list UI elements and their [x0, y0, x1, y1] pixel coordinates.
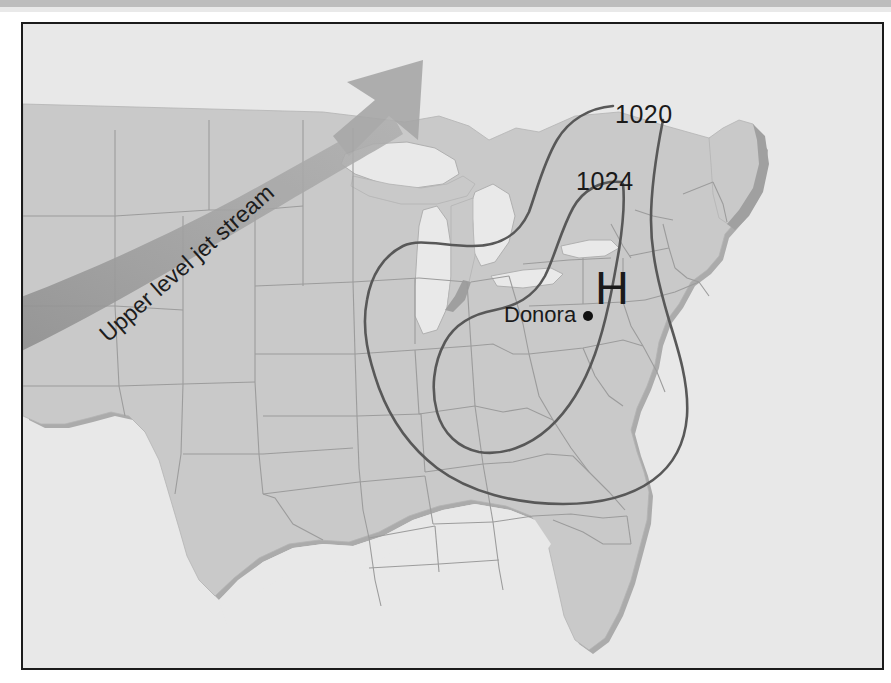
figure-page: 1020 1024 H Donora Upper level jet strea… [0, 0, 891, 683]
page-top-scan-strip-fade [0, 7, 891, 12]
city-marker-dot [583, 311, 593, 321]
high-pressure-label: H [595, 264, 629, 311]
weather-map-figure: 1020 1024 H Donora Upper level jet strea… [21, 22, 884, 670]
isobar-1024-label: 1024 [576, 169, 634, 194]
city-label-donora: Donora [504, 304, 576, 326]
page-top-scan-strip [0, 0, 891, 7]
map-canvas [23, 24, 882, 668]
isobar-1020-label: 1020 [615, 102, 673, 127]
